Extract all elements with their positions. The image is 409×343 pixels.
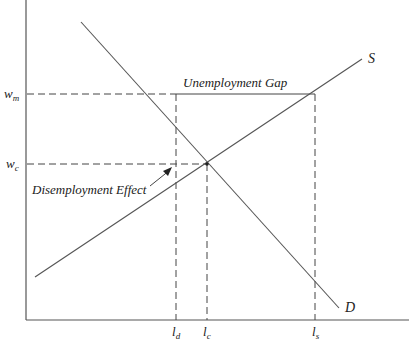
- ld-label: ld: [172, 324, 181, 341]
- labor-market-diagram: S D wm wc ld lc ls Unemployment Gap Dise…: [0, 0, 409, 343]
- demand-label: D: [344, 300, 355, 315]
- equilibrium-point: [205, 162, 209, 166]
- ls-label: ls: [312, 324, 320, 341]
- wc-label: wc: [6, 156, 19, 173]
- demand-curve: [81, 22, 339, 308]
- supply-label: S: [368, 51, 375, 66]
- disemployment-effect-label: Disemployment Effect: [31, 182, 147, 197]
- wm-label: wm: [4, 86, 20, 103]
- unemployment-gap-label: Unemployment Gap: [183, 75, 288, 90]
- supply-curve: [35, 59, 362, 277]
- lc-label: lc: [203, 324, 211, 341]
